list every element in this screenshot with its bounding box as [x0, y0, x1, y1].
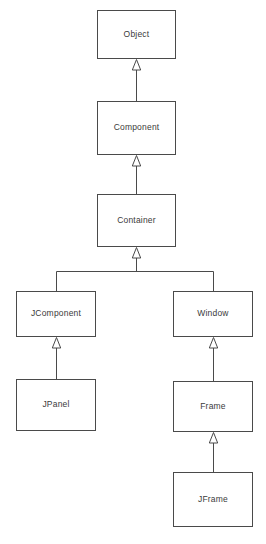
edge-branch-to-container	[132, 248, 140, 272]
class-box-component[interactable]: Component	[97, 101, 176, 155]
class-box-object[interactable]: Object	[97, 10, 176, 59]
class-box-window[interactable]: Window	[173, 291, 253, 337]
class-box-jframe[interactable]: JFrame	[173, 472, 253, 527]
edge-container-to-component	[132, 156, 140, 195]
edge-jframe-to-frame	[209, 433, 217, 473]
class-box-label: Frame	[200, 402, 226, 411]
class-box-label: Object	[124, 30, 150, 39]
generalization-arrowhead-icon	[132, 248, 140, 259]
class-box-label: Container	[117, 216, 156, 225]
generalization-arrowhead-icon	[209, 433, 217, 444]
class-box-label: JPanel	[42, 400, 69, 409]
generalization-arrowhead-icon	[132, 156, 140, 167]
class-box-jpanel[interactable]: JPanel	[16, 379, 96, 431]
generalization-arrowhead-icon	[209, 338, 217, 349]
edge-component-to-object	[132, 60, 140, 102]
edge-jpanel-to-jcomponent	[52, 338, 60, 380]
class-box-container[interactable]: Container	[97, 194, 176, 247]
edge-branch-bar	[57, 272, 214, 292]
diagram-connector-layer	[0, 0, 266, 544]
edge-frame-to-window	[209, 338, 217, 382]
generalization-arrowhead-icon	[52, 338, 60, 349]
uml-class-diagram: Object Component Container JComponent Wi…	[0, 0, 266, 544]
class-box-label: JFrame	[198, 495, 228, 504]
generalization-arrowhead-icon	[132, 60, 140, 71]
class-box-label: JComponent	[31, 309, 81, 318]
class-box-label: Window	[197, 309, 228, 318]
class-box-jcomponent[interactable]: JComponent	[16, 291, 96, 337]
class-box-frame[interactable]: Frame	[173, 381, 253, 432]
class-box-label: Component	[114, 123, 160, 132]
